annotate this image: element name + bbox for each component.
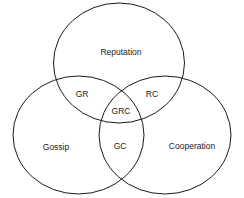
reputation-circle bbox=[54, 3, 185, 123]
rc-label: RC bbox=[146, 89, 158, 99]
gr-label: GR bbox=[76, 89, 89, 99]
venn-diagram: Reputation GR RC GRC Gossip GC Cooperati… bbox=[0, 0, 244, 198]
reputation-label: Reputation bbox=[100, 47, 141, 57]
gossip-label: Gossip bbox=[43, 142, 70, 152]
cooperation-circle bbox=[99, 76, 231, 194]
gc-label: GC bbox=[114, 141, 127, 151]
cooperation-label: Cooperation bbox=[169, 141, 216, 151]
grc-label: GRC bbox=[112, 106, 131, 116]
